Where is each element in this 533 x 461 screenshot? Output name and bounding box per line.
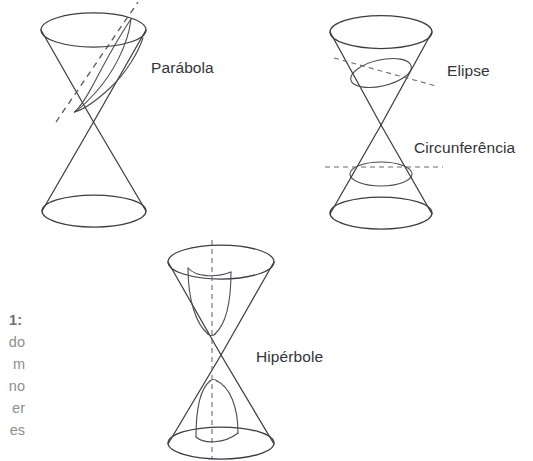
parabola-cutting-plane-dashed-line <box>56 2 138 122</box>
parabola-cone-base-ellipse <box>42 195 146 227</box>
label-circunferencia: Circunferência <box>414 139 516 156</box>
caption-line-5: er <box>12 400 25 416</box>
hiperbole-lower-left-generatrix <box>168 355 221 444</box>
elipse-lower-left-generatrix <box>330 125 381 214</box>
caption-line-2: do <box>9 334 25 350</box>
hiperbole-upper-right-generatrix <box>221 262 274 355</box>
hyperbola-upper-branch-rim-chord <box>188 268 231 276</box>
hyperbola-lower-branch-base-chord <box>196 433 238 442</box>
parabola-cone-diagram: Parábola <box>41 2 214 227</box>
caption-line-4: no <box>9 378 25 394</box>
conic-sections-figure: Parábola Elipse Circunferência <box>0 0 533 461</box>
parabola-upper-right-generatrix <box>94 30 147 122</box>
parabola-section-inner-edge <box>75 19 132 112</box>
figure-canvas: Parábola Elipse Circunferência <box>0 0 533 461</box>
figure-caption: 1: do m no er es <box>9 312 25 438</box>
parabola-cone-top-rim-ellipse <box>41 13 146 47</box>
hiperbole-cone-top-rim-ellipse <box>168 245 274 279</box>
elipse-circunferencia-cone-diagram: Elipse Circunferência <box>325 16 516 230</box>
elipse-cone-top-rim-ellipse <box>330 16 432 49</box>
label-elipse: Elipse <box>447 62 490 79</box>
ellipse-cutting-plane-dashed-line <box>334 58 436 86</box>
caption-line-6: es <box>10 422 25 438</box>
parabola-upper-left-generatrix <box>41 30 94 122</box>
label-hiperbole: Hipérbole <box>256 348 323 365</box>
label-parabola: Parábola <box>151 59 214 76</box>
hiperbole-cone-base-ellipse <box>168 427 274 459</box>
circle-section-curve <box>350 162 412 186</box>
elipse-cone-base-ellipse <box>330 197 432 229</box>
hyperbola-lower-branch-vertex <box>210 380 217 382</box>
hiperbole-cone-diagram: Hipérbole <box>168 240 323 459</box>
caption-line-3: m <box>13 356 25 372</box>
ellipse-section-curve <box>348 53 414 92</box>
hyperbola-upper-branch-right <box>215 272 231 334</box>
hiperbole-lower-right-generatrix <box>221 355 274 444</box>
hyperbola-lower-branch-right <box>217 381 238 433</box>
caption-line-1: 1: <box>9 312 22 328</box>
